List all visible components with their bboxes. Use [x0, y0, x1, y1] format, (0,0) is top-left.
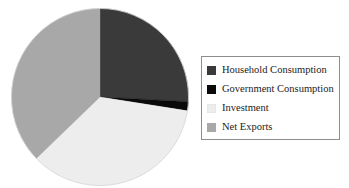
legend-color-swatch: [207, 123, 216, 132]
legend-item[interactable]: Household Consumption: [207, 61, 336, 80]
legend-color-swatch: [207, 66, 216, 75]
legend-item[interactable]: Government Consumption: [207, 80, 336, 99]
legend-item[interactable]: Investment: [207, 99, 336, 118]
legend-item[interactable]: Net Exports: [207, 118, 336, 137]
legend-color-swatch: [207, 104, 216, 113]
pie-chart-plot-area: [11, 8, 189, 186]
legend-item-label: Investment: [222, 103, 269, 114]
legend-box: Household ConsumptionGovernment Consumpt…: [201, 56, 340, 140]
legend-item-label: Net Exports: [222, 122, 272, 133]
pie-chart-figure: Household ConsumptionGovernment Consumpt…: [0, 0, 349, 188]
legend-item-label: Government Consumption: [222, 84, 334, 95]
pie-slice: [100, 9, 189, 102]
legend-color-swatch: [207, 85, 216, 94]
legend-item-list: Household ConsumptionGovernment Consumpt…: [207, 61, 336, 137]
pie-chart-svg: [11, 8, 189, 186]
legend-item-label: Household Consumption: [222, 65, 327, 76]
pie-slice-group: [11, 8, 188, 185]
chart-title-clipped: [0, 0, 349, 3]
